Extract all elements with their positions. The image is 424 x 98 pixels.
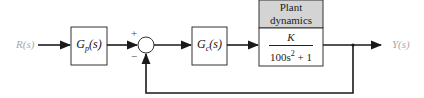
plant-header-text: Plant dynamics [259,1,323,27]
plant-numerator: K [259,31,323,44]
summing-junction [138,37,154,53]
prefilter-label: Gp(s) [71,37,107,53]
controller-label: Gc(s) [192,37,227,53]
prefilter-name: G [76,37,85,51]
denominator-tail: + 1 [295,51,312,63]
prefilter-arg: (s) [89,37,102,51]
controller-arg: (s) [209,37,222,51]
plus-sign: + [131,27,137,39]
input-label: R(s) [16,38,34,50]
output-label: Y(s) [392,38,410,50]
plant-header-line1: Plant [259,1,323,14]
fraction-bar [269,45,313,46]
plant-denominator: 100s2 + 1 [259,47,323,64]
plant-header-line2: dynamics [259,14,323,27]
minus-sign: − [131,50,137,62]
controller-name: G [197,37,206,51]
plant-transfer-function: K 100s2 + 1 [259,31,323,64]
denominator-main: 100s [270,51,291,63]
